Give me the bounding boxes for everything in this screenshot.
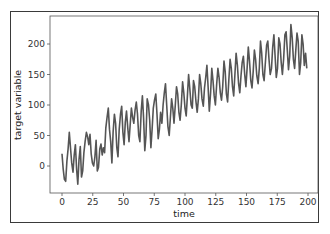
y-tick-label: 50 (34, 131, 46, 141)
x-tick-label: 0 (59, 197, 65, 207)
x-tick-label: 75 (149, 197, 160, 207)
y-tick-label: 0 (39, 161, 45, 171)
x-tick-label: 175 (269, 197, 286, 207)
x-tick-label: 125 (207, 197, 224, 207)
x-axis-label: time (173, 208, 195, 219)
y-tick-label: 100 (28, 100, 45, 110)
x-tick-label: 100 (176, 197, 193, 207)
x-tick-label: 50 (118, 197, 130, 207)
x-tick-label: 150 (238, 197, 255, 207)
y-axis-label: target variable (12, 70, 23, 140)
y-tick-label: 200 (28, 39, 45, 49)
y-tick-label: 150 (28, 70, 45, 80)
x-tick-label: 25 (87, 197, 98, 207)
x-tick-label: 200 (299, 197, 316, 207)
x-axis-ticks: 0255075100125150175200 (59, 193, 317, 207)
line-chart: 050100150200 0255075100125150175200 time… (0, 0, 330, 234)
y-axis-ticks: 050100150200 (28, 39, 50, 171)
